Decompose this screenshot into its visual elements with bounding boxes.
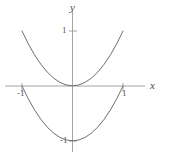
y-tick-label-negative-one: -1 bbox=[60, 136, 68, 145]
x-tick-label-one: 1 bbox=[122, 89, 127, 98]
x-tick-label-negative-one: -1 bbox=[17, 89, 25, 98]
plot-canvas bbox=[0, 0, 169, 158]
parabola-graph-figure: y x 1 -1 -1 1 bbox=[0, 0, 169, 158]
y-axis-label: y bbox=[70, 2, 75, 13]
y-tick-label-one: 1 bbox=[62, 26, 67, 35]
x-axis-label: x bbox=[150, 80, 155, 91]
